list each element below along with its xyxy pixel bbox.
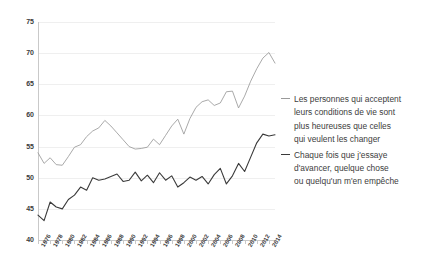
x-axis-tick: [269, 241, 270, 244]
x-axis-tick: [38, 241, 39, 244]
x-axis-tick: [111, 241, 112, 244]
legend-item-label-line: d'avancer, quelque chose: [294, 162, 437, 175]
chart-screenshot: 4045505560657075 19761978198019821984198…: [0, 0, 437, 277]
y-axis-tick-label: 55: [8, 143, 34, 150]
x-axis-tick: [220, 241, 221, 244]
y-axis-tick-label: 50: [8, 174, 34, 181]
x-axis-tick: [50, 241, 51, 244]
legend-item[interactable]: Les personnes qui acceptentleurs conditi…: [281, 93, 437, 147]
x-axis-tick-labels: 1976197819801982198419861988199019921994…: [38, 245, 288, 277]
y-axis-tick-label: 60: [8, 111, 34, 118]
x-axis-tick: [172, 241, 173, 244]
series-line: [38, 134, 275, 221]
y-axis-tick-label: 40: [8, 236, 34, 243]
x-axis-tick: [208, 241, 209, 244]
x-axis-tick: [62, 241, 63, 244]
x-axis-tick: [245, 241, 246, 244]
y-axis-tick-labels: 4045505560657075: [6, 0, 34, 277]
x-axis-tick: [135, 241, 136, 244]
x-axis-tick: [147, 241, 148, 244]
legend-item-label-line: Les personnes qui acceptent: [294, 93, 437, 106]
x-axis-tick: [257, 241, 258, 244]
legend-dash-icon: [281, 154, 290, 155]
legend-item-label: Chaque fois que j'essayed'avancer, quelq…: [294, 149, 437, 189]
series-line: [38, 53, 275, 166]
x-axis-tick: [99, 241, 100, 244]
plot-area: [38, 22, 275, 240]
legend-item-label-line: ou quelqu'un m'en empêche: [294, 175, 437, 188]
legend-item-label: Les personnes qui acceptentleurs conditi…: [294, 93, 437, 147]
legend-item-label-line: qui veulent les changer: [294, 133, 437, 146]
y-axis-tick-label: 45: [8, 205, 34, 212]
legend-item[interactable]: Chaque fois que j'essayed'avancer, quelq…: [281, 149, 437, 189]
y-axis-tick-label: 70: [8, 49, 34, 56]
y-axis-tick-label: 65: [8, 80, 34, 87]
y-axis-tick-label: 75: [8, 18, 34, 25]
x-axis-tick: [184, 241, 185, 244]
legend-item-label-line: leurs conditions de vie sont: [294, 106, 437, 119]
x-axis-tick: [87, 241, 88, 244]
x-axis-tick: [160, 241, 161, 244]
legend-dash-icon: [281, 98, 290, 99]
x-axis-tick: [123, 241, 124, 244]
legend-item-label-line: Chaque fois que j'essaye: [294, 149, 437, 162]
legend-item-label-line: plus heureuses que celles: [294, 120, 437, 133]
series-lines: [38, 22, 275, 240]
x-axis-tick: [196, 241, 197, 244]
chart-legend: Les personnes qui acceptentleurs conditi…: [281, 93, 437, 191]
